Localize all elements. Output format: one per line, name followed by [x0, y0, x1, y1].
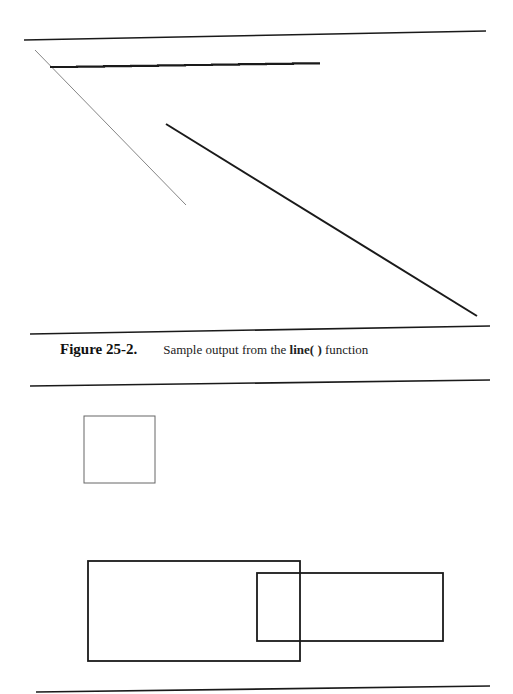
rule-line-0	[24, 31, 486, 40]
small-square	[84, 416, 155, 483]
caption-function-name: line( )	[290, 342, 322, 357]
stepped-line	[50, 63, 320, 67]
rule-line-3	[36, 686, 490, 692]
rule-line-1	[30, 326, 490, 334]
figure-label: Figure 25-2.	[60, 341, 137, 357]
thin-diagonal-line	[35, 50, 186, 205]
large-rectangle	[88, 561, 300, 661]
rule-line-2	[30, 380, 490, 386]
caption-suffix: function	[322, 342, 369, 357]
overlapping-rectangle	[257, 573, 443, 641]
figure-caption: Figure 25-2.Sample output from the line(…	[60, 341, 368, 358]
caption-prefix: Sample output from the	[163, 342, 289, 357]
thick-diagonal-line	[166, 124, 477, 316]
